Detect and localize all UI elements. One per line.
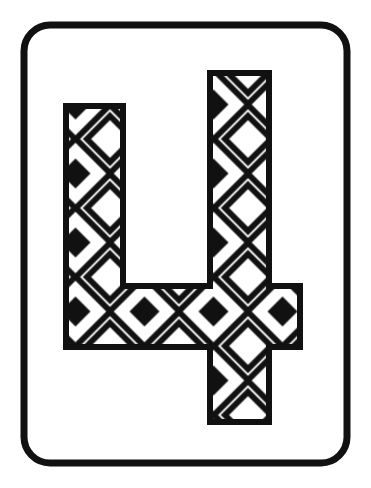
page-background [0,0,371,488]
number-four-illustration [0,0,371,488]
coloring-page-canvas: Number Four Coloring Page Outlined numer… [0,0,371,488]
